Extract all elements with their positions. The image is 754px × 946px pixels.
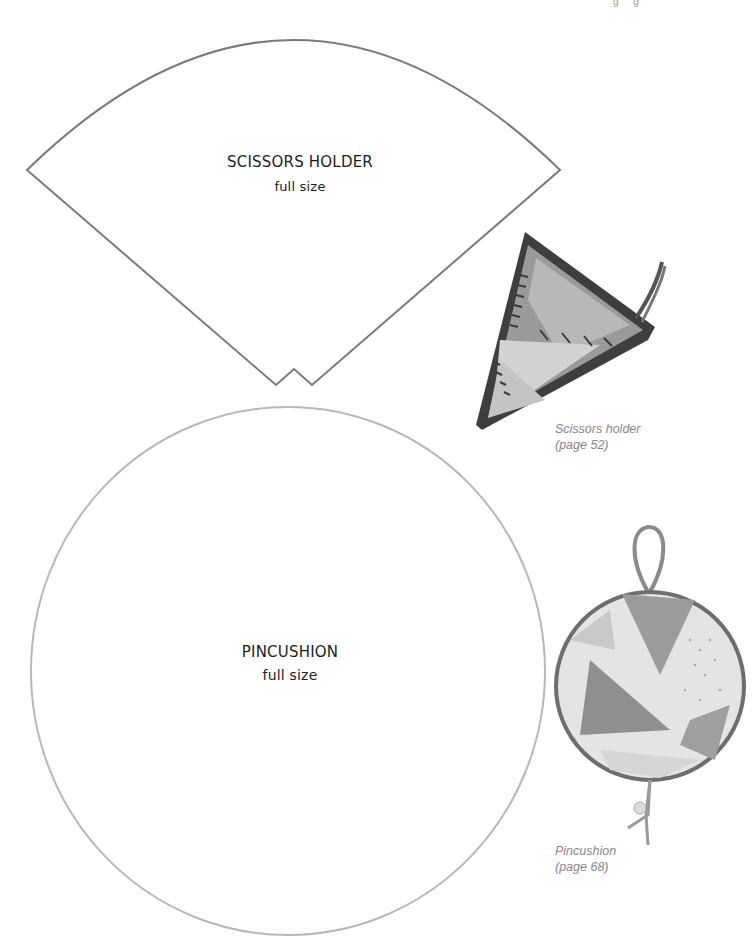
pincushion-photo (556, 527, 744, 845)
pincushion-subtitle: full size (190, 667, 390, 683)
caption-page-ref: (page 52) (555, 437, 640, 453)
scissors-holder-photo (476, 232, 665, 430)
scissors-holder-title: SCISSORS HOLDER (200, 153, 400, 171)
pincushion-caption: Pincushion (page 68) (555, 843, 616, 875)
pincushion-label: PINCUSHION full size (190, 643, 390, 683)
pattern-outlines (0, 0, 754, 946)
caption-page-ref: (page 68) (555, 859, 616, 875)
scissors-holder-subtitle: full size (200, 179, 400, 194)
caption-title: Pincushion (555, 843, 616, 859)
pincushion-title: PINCUSHION (190, 643, 390, 661)
caption-title: Scissors holder (555, 421, 640, 437)
scissors-holder-label: SCISSORS HOLDER full size (200, 153, 400, 194)
scissors-holder-template-outline (27, 40, 560, 385)
scissors-holder-caption: Scissors holder (page 52) (555, 421, 640, 453)
